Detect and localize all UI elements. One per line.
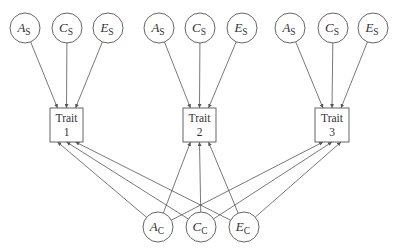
specific-factor-t1_as: AS bbox=[10, 13, 40, 43]
specific-factor-t2_cs: CS bbox=[185, 13, 215, 43]
trait-label: Trait bbox=[321, 112, 344, 124]
trait-box-trait2: Trait2 bbox=[183, 108, 216, 142]
path-ac-to-trait3 bbox=[171, 142, 323, 220]
path-t3_es-to-trait3 bbox=[341, 42, 367, 108]
path-diagram: Trait1Trait2Trait3 ASCSESASCSESASCSESACC… bbox=[0, 0, 398, 248]
path-ec-to-trait3 bbox=[255, 142, 341, 217]
trait-label: Trait bbox=[189, 112, 212, 124]
specific-factor-t3_cs: CS bbox=[318, 13, 348, 43]
path-ac-to-trait1 bbox=[58, 142, 147, 217]
path-cc-to-trait1 bbox=[67, 142, 189, 219]
path-t3_as-to-trait3 bbox=[296, 42, 323, 108]
trait-label: Trait bbox=[56, 112, 79, 124]
common-factor-ac: AC bbox=[143, 212, 173, 242]
common-factor-ec: EC bbox=[229, 212, 259, 242]
specific-factor-t2_es: ES bbox=[227, 13, 257, 43]
specific-factor-t1_es: ES bbox=[93, 13, 123, 43]
path-t2_as-to-trait2 bbox=[164, 42, 190, 108]
trait-box-trait3: Trait3 bbox=[315, 108, 349, 142]
path-ac-to-trait2 bbox=[163, 142, 190, 213]
specific-factor-t1_cs: CS bbox=[52, 13, 82, 43]
path-t1_as-to-trait1 bbox=[31, 42, 58, 108]
path-t2_es-to-trait2 bbox=[209, 42, 237, 108]
common-factor-cc: CC bbox=[186, 212, 216, 242]
trait-boxes: Trait1Trait2Trait3 bbox=[50, 108, 349, 142]
specific-factor-t2_as: AS bbox=[144, 13, 174, 43]
path-t1_es-to-trait1 bbox=[76, 42, 103, 108]
trait-number: 1 bbox=[64, 126, 70, 138]
trait-box-trait1: Trait1 bbox=[50, 108, 83, 142]
specific-factor-t3_as: AS bbox=[275, 13, 305, 43]
path-t3_cs-to-trait3 bbox=[332, 43, 333, 108]
path-cc-to-trait3 bbox=[214, 142, 332, 219]
path-cc-to-trait2 bbox=[200, 142, 201, 212]
trait-number: 3 bbox=[329, 126, 335, 138]
path-ec-to-trait2 bbox=[209, 142, 239, 213]
path-ec-to-trait1 bbox=[76, 142, 231, 220]
specific-factor-t3_es: ES bbox=[358, 13, 388, 43]
trait-number: 2 bbox=[197, 126, 203, 138]
